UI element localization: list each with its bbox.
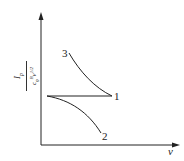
curve-2-label: 2 [102, 131, 108, 142]
y-axis-arrow-icon [39, 12, 44, 20]
y-axis-label: Ip c0Bv1/2 [12, 54, 36, 98]
curve-3 [69, 53, 112, 96]
x-axis-label: v [168, 146, 173, 157]
curve-1-label: 1 [114, 91, 120, 102]
x-axis-arrow-icon [172, 143, 180, 148]
curve-2 [47, 96, 101, 133]
curve-3-label: 3 [62, 48, 68, 59]
